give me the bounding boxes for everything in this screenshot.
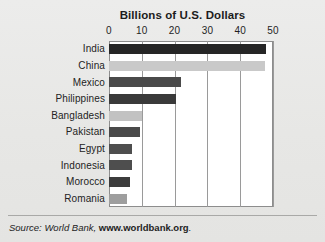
bar-morocco[interactable]: [109, 177, 130, 187]
bar-row: [109, 41, 273, 58]
chart-title: Billions of U.S. Dollars: [0, 9, 325, 21]
x-tick-40: 40: [234, 25, 246, 36]
source-divider: [8, 215, 317, 216]
category-label-egypt: Egypt: [4, 143, 105, 154]
x-tick-50: 50: [267, 25, 279, 36]
category-label-indonesia: Indonesia: [4, 160, 105, 171]
source-note: Source: World Bank, www.worldbank.org.: [9, 222, 191, 233]
bar-pakistan[interactable]: [109, 127, 140, 137]
x-tick-30: 30: [202, 25, 214, 36]
category-label-pakistan: Pakistan: [4, 126, 105, 137]
bar-row: [109, 124, 273, 141]
bar-bangladesh[interactable]: [109, 111, 142, 121]
category-label-bangladesh: Bangladesh: [4, 110, 105, 121]
bar-row: [109, 174, 273, 191]
bar-china[interactable]: [109, 61, 265, 71]
x-tick-20: 20: [169, 25, 181, 36]
bar-india[interactable]: [109, 44, 266, 54]
bar-row: [109, 91, 273, 108]
bar-philippines[interactable]: [109, 94, 176, 104]
x-tick-10: 10: [136, 25, 148, 36]
bar-row: [109, 58, 273, 75]
gridline-50: [273, 41, 274, 207]
bar-row: [109, 190, 273, 207]
bar-egypt[interactable]: [109, 144, 132, 154]
bar-mexico[interactable]: [109, 77, 181, 87]
x-tick-0: 0: [106, 25, 112, 36]
bar-romania[interactable]: [109, 194, 127, 204]
category-label-philippines: Philippines: [4, 93, 105, 104]
category-label-india: India: [4, 43, 105, 54]
chart-figure: Billions of U.S. Dollars 01020304050 Ind…: [0, 0, 325, 242]
bar-row: [109, 74, 273, 91]
bar-row: [109, 157, 273, 174]
category-label-romania: Romania: [4, 193, 105, 204]
bar-indonesia[interactable]: [109, 160, 132, 170]
plot-area: [109, 41, 273, 207]
source-prefix: Source: World Bank,: [9, 222, 99, 233]
bar-row: [109, 107, 273, 124]
bar-row: [109, 141, 273, 158]
source-suffix: .: [189, 222, 192, 233]
source-link[interactable]: www.worldbank.org: [99, 222, 189, 233]
category-label-morocco: Morocco: [4, 176, 105, 187]
category-label-mexico: Mexico: [4, 77, 105, 88]
category-label-china: China: [4, 60, 105, 71]
